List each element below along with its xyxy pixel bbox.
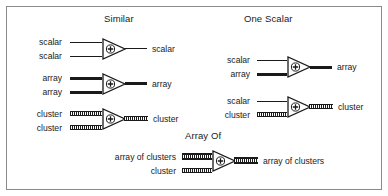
output-label: array of clusters	[263, 156, 324, 166]
input-label: array	[20, 87, 62, 97]
input-wire-scalar	[257, 60, 287, 61]
add-function-node[interactable]	[101, 37, 127, 61]
output-label: scalar	[152, 44, 175, 54]
output-label: cluster	[338, 102, 363, 112]
input-wire-cluster	[70, 125, 102, 130]
input-label: scalar	[20, 37, 62, 47]
input-wire-array-of-clusters	[182, 153, 212, 160]
input-wire-array	[70, 77, 102, 80]
section-heading-array-of: Array Of	[185, 130, 221, 141]
input-label: array	[20, 73, 62, 83]
input-wire-array	[257, 73, 287, 76]
input-wire-cluster	[257, 112, 287, 117]
output-wire-cluster	[309, 104, 333, 109]
input-wire-cluster	[182, 168, 212, 173]
input-label: cluster	[14, 123, 62, 133]
section-heading-one-scalar: One Scalar	[244, 13, 293, 24]
input-label: cluster	[202, 110, 250, 120]
polymorphism-figure: Similar One Scalar Array Of scalar scala…	[0, 0, 388, 196]
input-label: array of clusters	[98, 152, 176, 162]
input-label: array	[208, 69, 250, 79]
input-label: cluster	[98, 166, 176, 176]
input-label: scalar	[208, 55, 250, 65]
output-wire-array-of-clusters	[234, 157, 258, 164]
input-wire-scalar	[257, 101, 287, 102]
output-wire-array	[310, 66, 332, 69]
add-function-node[interactable]	[286, 55, 312, 79]
input-wire-scalar	[70, 56, 102, 57]
input-label: cluster	[14, 109, 62, 119]
add-function-node[interactable]	[101, 72, 127, 96]
input-label: scalar	[20, 51, 62, 61]
output-wire-scalar	[125, 48, 147, 49]
output-wire-cluster	[124, 116, 148, 121]
input-wire-array	[70, 91, 102, 94]
output-label: cluster	[153, 114, 178, 124]
input-label: scalar	[202, 96, 250, 106]
output-label: array	[337, 62, 357, 72]
output-label: array	[152, 79, 172, 89]
input-wire-cluster	[70, 111, 102, 116]
output-wire-array	[125, 82, 147, 85]
section-heading-similar: Similar	[104, 13, 134, 24]
figure-border	[6, 6, 382, 190]
input-wire-scalar	[70, 42, 102, 43]
